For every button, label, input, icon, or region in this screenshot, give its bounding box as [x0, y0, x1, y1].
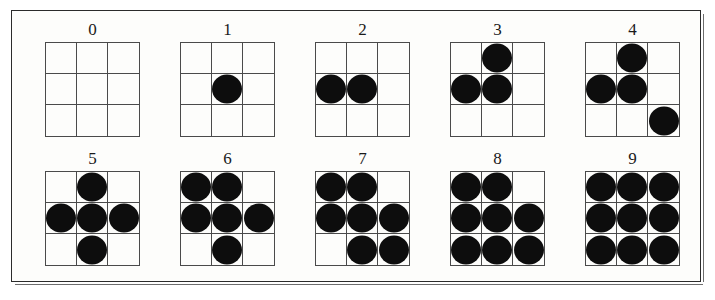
- grid-cell-empty: [648, 43, 679, 74]
- dot-icon: [649, 106, 679, 135]
- grid-cell-filled: [586, 234, 617, 265]
- grid-cell-filled: [77, 203, 108, 234]
- dot-icon: [347, 75, 377, 104]
- grid-cell-empty: [181, 74, 212, 105]
- dot-icon: [244, 204, 274, 233]
- grid-cell-empty: [513, 105, 544, 136]
- grid-cell-filled: [212, 203, 243, 234]
- grid-cell-filled: [77, 172, 108, 203]
- grid-cell-empty: [316, 105, 347, 136]
- pattern-block-2: 2: [295, 20, 430, 150]
- dot-icon: [109, 204, 139, 233]
- grid-cell-filled: [347, 74, 378, 105]
- dot-icon: [451, 235, 481, 264]
- grid-cell-empty: [316, 234, 347, 265]
- grid-cell-filled: [586, 172, 617, 203]
- dot-icon: [617, 235, 647, 264]
- pattern-grid: [585, 42, 680, 137]
- dot-icon: [617, 44, 647, 73]
- grid-cell-empty: [46, 172, 77, 203]
- grid-cell-filled: [482, 172, 513, 203]
- dot-icon: [77, 173, 107, 202]
- grid-cell-empty: [181, 43, 212, 74]
- grid-cell-filled: [586, 203, 617, 234]
- pattern-block-3: 3: [430, 20, 565, 150]
- grid-cell-empty: [316, 43, 347, 74]
- grid-cell-empty: [181, 105, 212, 136]
- pattern-grid-container: 01234 56789: [12, 11, 700, 281]
- dot-icon: [316, 173, 346, 202]
- dot-icon: [451, 173, 481, 202]
- pattern-block-5: 5: [25, 149, 160, 279]
- grid-cell-empty: [617, 105, 648, 136]
- dot-icon: [586, 235, 616, 264]
- dot-icon: [77, 235, 107, 264]
- dot-icon: [586, 75, 616, 104]
- pattern-label: 0: [88, 20, 97, 39]
- grid-cell-filled: [617, 74, 648, 105]
- pattern-row-bottom: 56789: [12, 149, 700, 279]
- grid-cell-empty: [243, 74, 274, 105]
- figure-frame: 01234 56789: [11, 10, 701, 282]
- dot-icon: [212, 75, 242, 104]
- grid-cell-empty: [648, 74, 679, 105]
- dot-icon: [514, 235, 544, 264]
- grid-cell-empty: [586, 105, 617, 136]
- pattern-grid: [180, 42, 275, 137]
- grid-cell-filled: [347, 234, 378, 265]
- dot-icon: [181, 204, 211, 233]
- dot-icon: [649, 204, 679, 233]
- dot-icon: [46, 204, 76, 233]
- pattern-label: 6: [223, 149, 232, 168]
- grid-cell-filled: [451, 172, 482, 203]
- grid-cell-empty: [181, 234, 212, 265]
- pattern-label: 2: [358, 20, 367, 39]
- grid-cell-filled: [648, 105, 679, 136]
- pattern-block-8: 8: [430, 149, 565, 279]
- dot-icon: [482, 75, 512, 104]
- pattern-block-7: 7: [295, 149, 430, 279]
- grid-cell-filled: [243, 203, 274, 234]
- dot-icon: [212, 235, 242, 264]
- pattern-label: 9: [628, 149, 637, 168]
- grid-cell-empty: [243, 234, 274, 265]
- dot-icon: [347, 235, 377, 264]
- dot-icon: [482, 204, 512, 233]
- dot-icon: [347, 173, 377, 202]
- dot-icon: [482, 44, 512, 73]
- dot-icon: [649, 173, 679, 202]
- grid-cell-empty: [46, 74, 77, 105]
- grid-cell-filled: [212, 74, 243, 105]
- grid-cell-empty: [347, 43, 378, 74]
- grid-cell-filled: [212, 234, 243, 265]
- pattern-label: 5: [88, 149, 97, 168]
- grid-cell-empty: [243, 172, 274, 203]
- grid-cell-filled: [648, 203, 679, 234]
- grid-cell-empty: [243, 105, 274, 136]
- grid-cell-filled: [617, 234, 648, 265]
- pattern-grid: [585, 171, 680, 266]
- grid-cell-empty: [108, 74, 139, 105]
- dot-icon: [514, 204, 544, 233]
- grid-cell-empty: [212, 43, 243, 74]
- grid-cell-filled: [316, 203, 347, 234]
- grid-cell-filled: [513, 234, 544, 265]
- grid-cell-empty: [378, 105, 409, 136]
- pattern-row-top: 01234: [12, 20, 700, 150]
- grid-cell-empty: [378, 43, 409, 74]
- dot-icon: [316, 75, 346, 104]
- grid-cell-empty: [108, 234, 139, 265]
- dot-icon: [482, 173, 512, 202]
- dot-icon: [451, 204, 481, 233]
- dot-icon: [586, 204, 616, 233]
- dot-icon: [379, 235, 409, 264]
- pattern-grid: [450, 171, 545, 266]
- grid-cell-filled: [482, 234, 513, 265]
- grid-cell-filled: [181, 203, 212, 234]
- grid-cell-empty: [586, 43, 617, 74]
- dot-icon: [181, 173, 211, 202]
- grid-cell-filled: [482, 203, 513, 234]
- dot-icon: [347, 204, 377, 233]
- grid-cell-empty: [77, 105, 108, 136]
- grid-cell-filled: [482, 43, 513, 74]
